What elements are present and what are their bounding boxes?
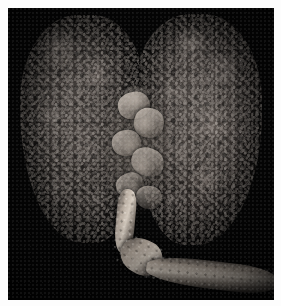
photo-frame [0, 0, 281, 306]
hilar-structures [104, 84, 173, 218]
esophagus-lower-segment [145, 253, 274, 297]
esophagus-lower-texture [145, 253, 274, 297]
specimen-photograph [8, 8, 274, 300]
